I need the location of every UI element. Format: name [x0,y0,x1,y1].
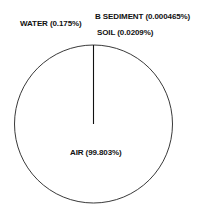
label-water: WATER (0.175%) [20,19,82,28]
label-soil: SOIL (0.0209%) [97,28,153,37]
label-sediment: B SEDIMENT (0.000465%) [95,12,190,21]
label-air: AIR (99.803%) [70,148,122,157]
